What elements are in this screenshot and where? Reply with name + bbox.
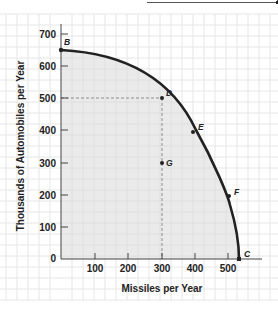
point-d-label: D	[166, 88, 172, 98]
x-tick-200: 200	[120, 263, 137, 274]
point-c-label: C	[244, 249, 251, 259]
x-tick-300: 300	[154, 263, 171, 274]
x-tick-100: 100	[87, 263, 104, 274]
y-tick-0: 0	[50, 253, 56, 264]
point-g-marker	[160, 161, 164, 165]
y-tick-100: 100	[39, 222, 56, 233]
y-axis-title: Thousands of Automobiles per Year	[15, 61, 26, 232]
y-tick-700: 700	[39, 29, 56, 40]
point-e-label: E	[198, 122, 204, 132]
x-tick-500: 500	[220, 263, 237, 274]
point-d-marker	[160, 96, 164, 100]
point-g-label: G	[166, 158, 173, 168]
x-tick-400: 400	[187, 263, 204, 274]
point-e-marker	[191, 130, 195, 134]
y-tick-300: 300	[39, 158, 56, 169]
point-f-label: F	[234, 187, 240, 197]
y-tick-400: 400	[39, 125, 56, 136]
feasible-region-shade	[61, 50, 239, 259]
point-c-marker	[237, 257, 241, 261]
point-b-label: B	[64, 37, 70, 47]
x-axis-title: Missiles per Year	[122, 283, 203, 294]
y-tick-200: 200	[39, 190, 56, 201]
y-tick-500: 500	[39, 93, 56, 104]
point-f-marker	[227, 194, 231, 198]
ppf-chart: 700 600 500 400 300 200 100 0 100 200 30…	[0, 0, 278, 313]
y-tick-600: 600	[39, 61, 56, 72]
point-b-marker	[59, 48, 63, 52]
